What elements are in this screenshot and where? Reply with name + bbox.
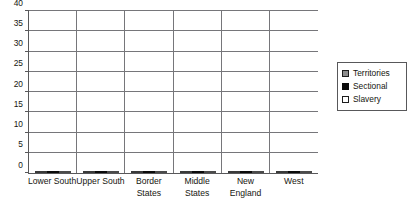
bar-territories (35, 171, 47, 173)
x-axis-label-line: States (173, 188, 221, 200)
legend-label: Territories (353, 69, 390, 77)
legend-swatch-slavery (342, 96, 349, 103)
bar-slavery (155, 171, 167, 173)
bar-territories (228, 171, 240, 173)
bar-group (222, 11, 270, 173)
x-axis-label-line: Middle (173, 176, 221, 188)
bar-slavery (59, 171, 71, 173)
x-axis-label: West (270, 176, 318, 199)
y-tick-label-10: 10 (14, 120, 23, 128)
legend-swatch-sectional (342, 83, 349, 90)
x-axis-label-line: Upper South (76, 176, 124, 188)
legend-item-sectional: Sectional (342, 80, 402, 93)
y-tick-label-35: 35 (14, 19, 23, 27)
chart-legend: TerritoriesSectionalSlavery (337, 62, 407, 111)
x-axis-label: Upper South (76, 176, 124, 199)
bar-groups (29, 11, 318, 173)
x-axis-label-line: Lower South (28, 176, 76, 188)
bar-group (77, 11, 125, 173)
bar-slavery (252, 171, 264, 173)
legend-label: Slavery (353, 95, 381, 103)
x-axis-labels: Lower SouthUpper SouthBorderStatesMiddle… (28, 176, 318, 199)
x-axis-label-line: New England (221, 176, 269, 199)
y-tick-label-40: 40 (14, 0, 23, 7)
bar-group (125, 11, 173, 173)
bar-sectional (240, 171, 252, 173)
bar-group (270, 11, 318, 173)
x-axis-label-line: Border (125, 176, 173, 188)
y-tick-label-0: 0 (18, 160, 23, 168)
bar-territories (131, 171, 143, 173)
bars (83, 171, 119, 173)
legend-swatch-territories (342, 70, 349, 77)
bars (228, 171, 264, 173)
bar-sectional (95, 171, 107, 173)
bars (180, 171, 216, 173)
bar-territories (276, 171, 288, 173)
x-axis-label: Lower South (28, 176, 76, 199)
bars (131, 171, 167, 173)
y-tick-label-5: 5 (18, 140, 23, 148)
bar-slavery (300, 171, 312, 173)
bar-territories (180, 171, 192, 173)
y-tick-label-25: 25 (14, 59, 23, 67)
bar-chart: 0510152025303540 Lower SouthUpper SouthB… (0, 0, 413, 208)
bar-sectional (143, 171, 155, 173)
bar-sectional (192, 171, 204, 173)
bar-sectional (288, 171, 300, 173)
y-tick-label-30: 30 (14, 39, 23, 47)
legend-label: Sectional (353, 82, 387, 90)
bar-slavery (107, 171, 119, 173)
legend-item-territories: Territories (342, 67, 402, 80)
bar-sectional (47, 171, 59, 173)
y-tick-label-20: 20 (14, 79, 23, 87)
bar-slavery (204, 171, 216, 173)
x-axis-label-line: States (125, 188, 173, 200)
bar-group (29, 11, 77, 173)
bar-territories (83, 171, 95, 173)
x-axis-label: MiddleStates (173, 176, 221, 199)
x-axis-label-line: West (270, 176, 318, 188)
legend-item-slavery: Slavery (342, 93, 402, 106)
bar-group (174, 11, 222, 173)
bars (276, 171, 312, 173)
bars (35, 171, 71, 173)
plot-area: 0510152025303540 (28, 11, 318, 174)
x-axis-label: New England (221, 176, 269, 199)
y-tick-label-15: 15 (14, 100, 23, 108)
x-axis-label: BorderStates (125, 176, 173, 199)
